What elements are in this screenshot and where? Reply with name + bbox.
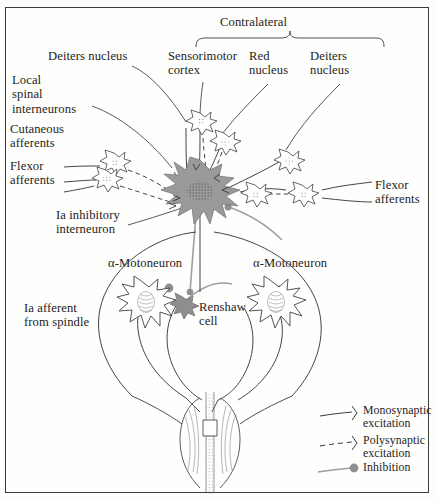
pool-inner-left-b bbox=[167, 306, 202, 400]
interneuron-cortex bbox=[186, 110, 217, 135]
interneuron-flexor-right-outer bbox=[288, 182, 319, 207]
leader-deiters-right bbox=[286, 84, 340, 150]
legend-poly-terminal bbox=[352, 436, 357, 450]
label-ia-inhibitory-interneuron: Ia inhibitory interneuron bbox=[56, 208, 120, 237]
contralateral-brace bbox=[196, 31, 384, 47]
path-in-to-right-mn bbox=[226, 206, 282, 240]
label-renshaw-cell: Renshaw cell bbox=[199, 300, 246, 329]
muscle-spindle bbox=[132, 392, 292, 494]
leader-sensorimotor bbox=[200, 82, 203, 118]
label-alpha-motoneuron-right: α-Motoneuron bbox=[253, 256, 327, 270]
path-flexor-right-lower bbox=[322, 198, 372, 202]
inhib-ball-renshaw-out bbox=[187, 289, 194, 296]
legend-inhib-ball bbox=[350, 464, 359, 473]
label-flexor-afferents-right: Flexor afferents bbox=[375, 178, 420, 207]
label-local-spinal-interneurons: Local spinal interneurons bbox=[12, 73, 76, 116]
legend-inhib-line bbox=[318, 468, 350, 472]
legend-label-inhibition: Inhibition bbox=[363, 461, 411, 474]
label-sensorimotor-cortex: Sensorimotor cortex bbox=[168, 49, 237, 78]
label-deiters-nucleus-right: Deiters nucleus bbox=[310, 49, 349, 78]
label-cutaneous-afferents: Cutaneous afferents bbox=[10, 122, 64, 151]
brace-label: Contralateral bbox=[220, 15, 287, 29]
label-flexor-afferents-left: Flexor afferents bbox=[10, 159, 55, 188]
legend-poly-line bbox=[320, 442, 352, 446]
alpha-motoneuron-right-cell bbox=[247, 276, 306, 328]
legend-label-monosynaptic: Monosynaptic excitation bbox=[363, 404, 432, 431]
renshaw-cell bbox=[170, 293, 199, 319]
path-flexor-left-upper bbox=[64, 180, 96, 182]
path-flexor-right-upper bbox=[322, 182, 372, 190]
ia-inhibitory-interneuron bbox=[161, 157, 240, 224]
path-cutaneous-lead bbox=[64, 166, 100, 167]
legend-mono-line bbox=[320, 412, 352, 416]
path-flexor-left-lower bbox=[64, 186, 94, 192]
label-deiters-nucleus-left: Deiters nucleus bbox=[48, 49, 128, 63]
interneuron-flexor-right-inner bbox=[241, 182, 272, 207]
leader-ia-inhib bbox=[128, 208, 182, 225]
label-alpha-motoneuron-left: α-Motoneuron bbox=[108, 256, 182, 270]
legend-symbols bbox=[318, 406, 358, 472]
alpha-motoneuron-left-cell bbox=[117, 276, 176, 328]
interneuron-deiters-right bbox=[274, 149, 305, 174]
path-in-to-renshaw-axis bbox=[190, 214, 196, 292]
label-ia-afferent-from-spindle: Ia afferent from spindle bbox=[24, 301, 89, 330]
legend-mono-terminal bbox=[352, 406, 357, 420]
interneuron-red bbox=[210, 130, 241, 155]
legend-label-polysynaptic: Polysynaptic excitation bbox=[363, 434, 425, 461]
figure-root: Contralateral Deiters nucleus Local spin… bbox=[0, 0, 437, 501]
label-red-nucleus: Red nucleus bbox=[249, 49, 288, 78]
leader-red-nucleus bbox=[222, 84, 268, 134]
